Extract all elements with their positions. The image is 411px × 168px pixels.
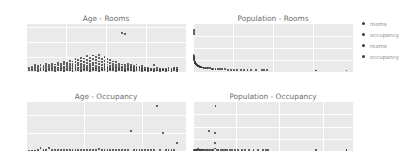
legend-item[interactable]: rooms [362, 18, 399, 29]
panel-title-population-occupancy: Population - Occupancy [193, 92, 353, 101]
data-point [101, 68, 103, 70]
legend-item[interactable]: occupancy [362, 29, 399, 40]
data-point [262, 149, 264, 151]
plot-area-population-rooms [193, 24, 353, 72]
data-point [159, 68, 161, 70]
gridline-vertical [273, 24, 274, 72]
data-point [77, 59, 79, 61]
data-point [127, 67, 129, 69]
panel-title-age-rooms: Age - Rooms [26, 14, 186, 23]
gridline-vertical [142, 102, 143, 151]
data-point [95, 67, 97, 69]
data-point [165, 149, 167, 151]
figure-scatter-matrix: Age - Rooms 050100150 Population - Rooms… [0, 0, 411, 168]
data-point [37, 67, 39, 69]
data-point [60, 149, 62, 151]
data-point [69, 63, 71, 65]
data-point [89, 57, 91, 59]
data-point [98, 148, 100, 150]
data-point [162, 68, 164, 70]
data-point [63, 61, 65, 63]
gridline-vertical [236, 102, 237, 151]
legend-item[interactable]: rooms [362, 40, 399, 51]
data-point [124, 66, 126, 68]
data-point [156, 105, 158, 107]
panel-population-occupancy: Population - Occupancy 010k20k30k [193, 92, 353, 160]
data-point [45, 63, 47, 65]
data-point [95, 59, 97, 61]
gridline-vertical [26, 24, 27, 72]
data-point [63, 63, 65, 65]
data-point [34, 68, 36, 70]
panel-title-population-rooms: Population - Rooms [193, 14, 353, 23]
data-point [89, 63, 91, 65]
data-point [127, 149, 129, 151]
data-point [124, 68, 126, 70]
legend-item[interactable]: occupancy [362, 51, 399, 62]
data-point [266, 69, 268, 71]
data-point [28, 150, 30, 151]
data-point [69, 65, 71, 67]
data-point [69, 149, 71, 151]
data-point [107, 66, 109, 68]
data-point [95, 65, 97, 67]
data-point [77, 62, 79, 64]
data-point [37, 149, 39, 151]
data-point [95, 56, 97, 58]
gridline-vertical [279, 102, 280, 151]
data-point [75, 58, 77, 60]
data-point [66, 66, 68, 68]
data-point [98, 66, 100, 68]
data-point [69, 60, 71, 62]
data-point [66, 149, 68, 151]
legend-item-label: occupancy [370, 54, 399, 60]
data-point [109, 65, 111, 67]
data-point [121, 32, 123, 34]
data-point [86, 59, 88, 61]
data-point [107, 58, 109, 60]
gridline-vertical [323, 102, 324, 151]
data-point [247, 69, 249, 71]
legend-marker-icon [362, 44, 365, 47]
data-point [75, 61, 77, 63]
data-point [92, 58, 94, 60]
data-point [214, 142, 216, 144]
gridline-horizontal [193, 114, 353, 115]
data-point [40, 68, 42, 70]
data-point [66, 62, 68, 64]
panel-population-rooms: Population - Rooms [193, 14, 353, 74]
data-point [31, 150, 33, 151]
data-point [133, 65, 135, 67]
data-point [98, 63, 100, 65]
data-point [34, 150, 36, 151]
data-point [77, 68, 79, 70]
data-point [37, 65, 39, 67]
data-point [144, 68, 146, 70]
data-point [98, 61, 100, 63]
data-point [233, 69, 235, 71]
data-point [40, 147, 42, 149]
data-point [255, 69, 257, 71]
plot-area-population-occupancy: 010k20k30k [193, 102, 353, 151]
data-point [124, 33, 126, 35]
data-point [60, 65, 62, 67]
data-point [118, 65, 120, 67]
panel-age-rooms: Age - Rooms 050100150 [26, 14, 186, 74]
gridline-vertical [193, 102, 194, 151]
data-point [229, 149, 231, 151]
data-point [31, 68, 33, 70]
data-point [98, 54, 100, 56]
data-point [66, 64, 68, 66]
data-point [89, 67, 91, 69]
data-point [224, 68, 226, 70]
data-point [45, 65, 47, 67]
data-point [86, 65, 88, 67]
gridline-vertical [84, 102, 85, 151]
data-point [171, 68, 173, 70]
data-point [51, 63, 53, 65]
data-point [80, 60, 82, 62]
data-point [153, 149, 155, 151]
data-point [72, 61, 74, 63]
data-point [43, 67, 45, 69]
data-point [159, 149, 161, 151]
